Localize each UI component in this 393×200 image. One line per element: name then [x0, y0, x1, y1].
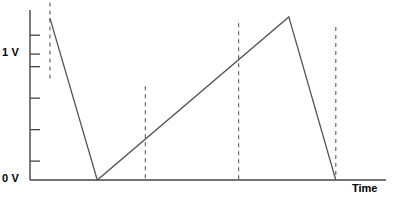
chart-container: 1 V 0 V Time	[0, 0, 393, 200]
chart-plot-area	[0, 0, 393, 200]
y-axis-label-0v: 0 V	[2, 172, 19, 184]
y-axis-label-1v: 1 V	[2, 46, 19, 58]
x-axis-label-time: Time	[352, 182, 377, 194]
waveform-trace	[50, 17, 336, 180]
y-axis-ticks	[30, 35, 40, 161]
